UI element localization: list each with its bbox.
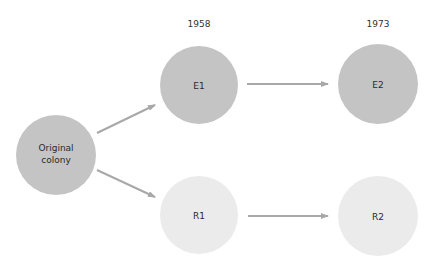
node-e2: E2: [338, 44, 418, 124]
node-r2-label: R2: [372, 212, 384, 222]
year-label-1973: 1973: [367, 19, 390, 29]
node-original-colony: Original colony: [16, 115, 96, 195]
node-e1: E1: [160, 46, 238, 124]
node-original-label-line1: Original: [38, 143, 73, 153]
node-r1-label: R1: [193, 211, 205, 221]
node-e1-label: E1: [193, 81, 204, 91]
year-label-1958: 1958: [188, 19, 211, 29]
colony-lineage-diagram: 1958 1973 Original colony E1 E2 R1 R2: [0, 0, 440, 270]
node-r2: R2: [338, 176, 418, 256]
node-original-label-line2: colony: [41, 155, 71, 165]
node-e2-label: E2: [372, 80, 383, 90]
node-r1: R1: [160, 176, 238, 254]
arrow-original-to-r1: [97, 170, 155, 197]
arrow-original-to-e1: [97, 105, 155, 133]
